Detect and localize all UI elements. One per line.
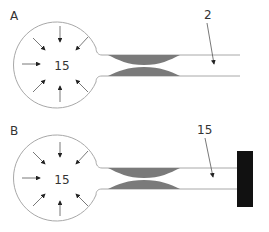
constriction-upper <box>108 168 180 178</box>
leader-arrow-a <box>207 23 214 64</box>
panel-label-a: A <box>10 9 19 23</box>
bulb-pressure-a: 15 <box>54 59 69 73</box>
constriction-upper <box>108 55 180 65</box>
tube-end-cap <box>237 151 253 207</box>
constriction-lower <box>108 67 180 76</box>
tube-pressure-a: 2 <box>204 8 212 22</box>
panel-b: B 15 15 <box>10 123 253 221</box>
bulb-pressure-b: 15 <box>54 173 69 187</box>
panel-label-b: B <box>10 124 18 138</box>
diagram-canvas: A 15 2 B 15 <box>0 0 269 232</box>
tube-pressure-b: 15 <box>197 123 212 137</box>
constriction-lower <box>108 180 180 189</box>
panel-a: A 15 2 <box>10 8 240 108</box>
leader-arrow-b <box>205 138 213 177</box>
